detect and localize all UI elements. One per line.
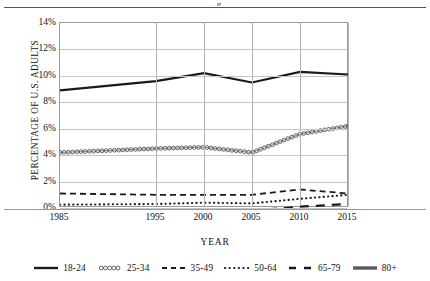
x-axis-title: YEAR	[0, 237, 430, 247]
legend-item-18-24[interactable]: 18-24	[33, 263, 86, 273]
y-tick-label: 6%	[6, 123, 56, 133]
y-tick-label: 2%	[6, 176, 56, 186]
x-axis-title-text: YEAR	[200, 237, 229, 247]
cropped-glyph: g	[212, 0, 226, 6]
legend-key-dotted-icon	[224, 264, 250, 272]
x-tick-label: 1985	[29, 212, 89, 223]
chart-legend: 18-2425-3435-4950-6465-7980+	[0, 258, 430, 278]
legend-label: 65-79	[318, 263, 341, 273]
y-tick-label: 14%	[6, 17, 56, 27]
x-tick-label: 2015	[317, 212, 377, 223]
gridline-vertical	[204, 23, 205, 206]
legend-item-35-49[interactable]: 35-49	[161, 263, 214, 273]
y-tick-label: 4%	[6, 149, 56, 159]
gridline-vertical	[252, 23, 253, 206]
gridline-vertical	[348, 23, 349, 206]
gridline-vertical	[156, 23, 157, 206]
legend-label: 80+	[382, 263, 397, 273]
y-tick-label: 10%	[6, 70, 56, 80]
plot-area	[59, 22, 348, 207]
legend-label: 25-34	[127, 263, 150, 273]
legend-label: 18-24	[63, 263, 86, 273]
y-tick-label: 8%	[6, 96, 56, 106]
legend-item-65-79[interactable]: 65-79	[288, 263, 341, 273]
legend-key-circle-markers-icon	[97, 264, 123, 272]
chart-figure: g PERCENTAGE OF U.S. ADULTS 14% 12% 10% …	[0, 0, 430, 281]
legend-key-long-dash-icon	[288, 264, 314, 272]
legend-key-dashed-icon	[161, 264, 187, 272]
legend-label: 35-49	[191, 263, 214, 273]
top-divider-rule	[4, 7, 426, 8]
y-tick-label: 12%	[6, 43, 56, 53]
legend-item-25-34[interactable]: 25-34	[97, 263, 150, 273]
legend-key-thick-gray-icon	[352, 264, 378, 272]
legend-item-80+[interactable]: 80+	[352, 263, 397, 273]
x-axis-baseline	[4, 209, 426, 210]
gridline-vertical	[300, 23, 301, 206]
legend-item-50-64[interactable]: 50-64	[224, 263, 277, 273]
legend-label: 50-64	[254, 263, 277, 273]
y-tick-label: 0%	[6, 202, 56, 212]
legend-key-solid-thick-icon	[33, 264, 59, 272]
